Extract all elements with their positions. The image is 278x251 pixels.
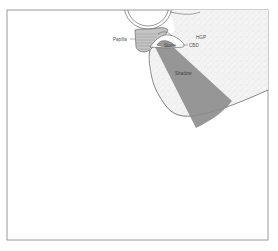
label-hgp: HGP: [196, 35, 206, 40]
label-papilla: Papilla: [113, 37, 127, 42]
diagram-canvas: Papilla HGP CBD Stone Shadow: [0, 0, 278, 251]
label-stone: Stone: [164, 43, 176, 48]
diagram-figure: Papilla HGP CBD Stone Shadow: [0, 0, 278, 251]
label-cbd: CBD: [189, 43, 199, 48]
label-shadow: Shadow: [175, 71, 192, 76]
